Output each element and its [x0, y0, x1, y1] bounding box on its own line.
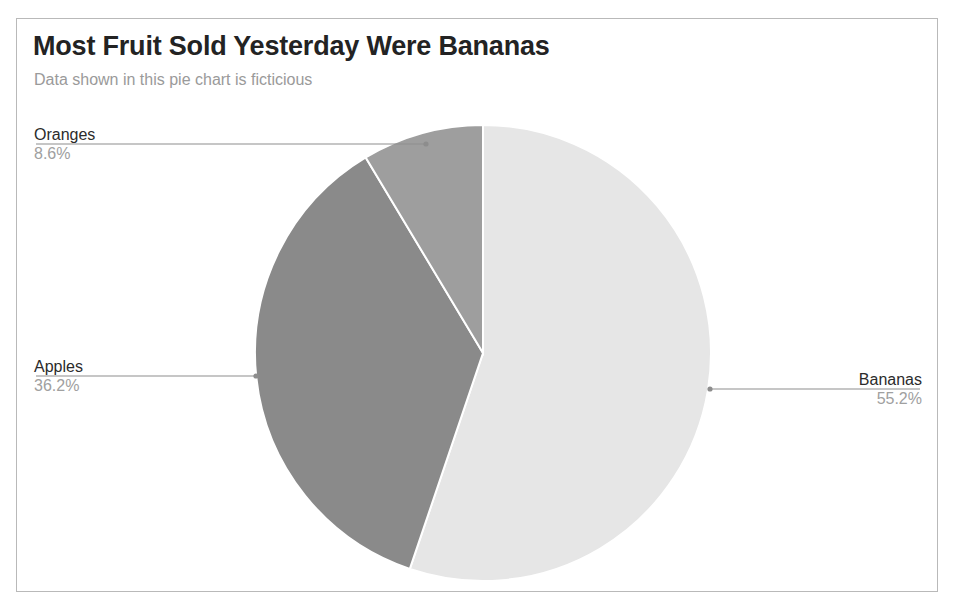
leader-dot-oranges: [423, 141, 428, 146]
pie-chart: Oranges 8.6% Apples 36.2% Bananas 55.2%: [17, 19, 938, 592]
pie-label-bananas-value: 55.2%: [859, 389, 922, 409]
pie-chart-svg: [17, 19, 938, 592]
pie-label-oranges[interactable]: Oranges 8.6%: [34, 125, 95, 164]
chart-card: Most Fruit Sold Yesterday Were Bananas D…: [16, 18, 938, 592]
pie-label-apples[interactable]: Apples 36.2%: [34, 357, 83, 396]
pie-label-apples-value: 36.2%: [34, 376, 83, 396]
pie-label-bananas-name: Bananas: [859, 370, 922, 389]
pie-label-bananas[interactable]: Bananas 55.2%: [859, 370, 922, 409]
leader-dot-apples: [253, 373, 258, 378]
pie-label-apples-name: Apples: [34, 357, 83, 376]
pie-label-oranges-value: 8.6%: [34, 144, 95, 164]
leader-dot-bananas: [707, 386, 712, 391]
pie-label-oranges-name: Oranges: [34, 125, 95, 144]
